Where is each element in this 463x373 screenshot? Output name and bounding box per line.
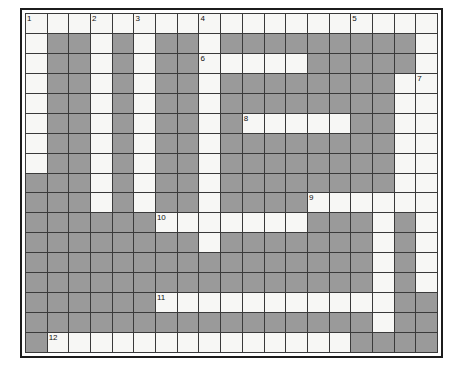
- letter-cell[interactable]: [91, 134, 112, 153]
- letter-cell[interactable]: [26, 34, 47, 53]
- letter-cell[interactable]: [221, 54, 242, 73]
- letter-cell[interactable]: [199, 114, 220, 133]
- letter-cell[interactable]: 5: [351, 14, 372, 33]
- letter-cell[interactable]: [416, 233, 437, 252]
- letter-cell[interactable]: [265, 14, 286, 33]
- letter-cell[interactable]: [286, 213, 307, 232]
- letter-cell[interactable]: 1: [26, 14, 47, 33]
- letter-cell[interactable]: [395, 114, 416, 133]
- letter-cell[interactable]: [286, 293, 307, 312]
- letter-cell[interactable]: [395, 154, 416, 173]
- letter-cell[interactable]: [221, 333, 242, 352]
- letter-cell[interactable]: [221, 14, 242, 33]
- letter-cell[interactable]: [373, 293, 394, 312]
- letter-cell[interactable]: [91, 174, 112, 193]
- letter-cell[interactable]: [395, 174, 416, 193]
- letter-cell[interactable]: [308, 114, 329, 133]
- letter-cell[interactable]: [416, 174, 437, 193]
- letter-cell[interactable]: [265, 114, 286, 133]
- letter-cell[interactable]: [91, 154, 112, 173]
- letter-cell[interactable]: [199, 154, 220, 173]
- letter-cell[interactable]: [330, 114, 351, 133]
- letter-cell[interactable]: [416, 253, 437, 272]
- letter-cell[interactable]: [199, 134, 220, 153]
- letter-cell[interactable]: 4: [199, 14, 220, 33]
- letter-cell[interactable]: [134, 54, 155, 73]
- letter-cell[interactable]: [416, 54, 437, 73]
- letter-cell[interactable]: 7: [416, 74, 437, 93]
- letter-cell[interactable]: [199, 74, 220, 93]
- letter-cell[interactable]: [134, 114, 155, 133]
- letter-cell[interactable]: [221, 213, 242, 232]
- letter-cell[interactable]: [330, 333, 351, 352]
- letter-cell[interactable]: 10: [156, 213, 177, 232]
- letter-cell[interactable]: [91, 333, 112, 352]
- letter-cell[interactable]: [308, 333, 329, 352]
- letter-cell[interactable]: [199, 174, 220, 193]
- letter-cell[interactable]: [395, 74, 416, 93]
- letter-cell[interactable]: [243, 14, 264, 33]
- letter-cell[interactable]: [395, 134, 416, 153]
- letter-cell[interactable]: [351, 293, 372, 312]
- letter-cell[interactable]: [373, 253, 394, 272]
- letter-cell[interactable]: [330, 293, 351, 312]
- letter-cell[interactable]: [91, 34, 112, 53]
- letter-cell[interactable]: [286, 114, 307, 133]
- letter-cell[interactable]: [134, 94, 155, 113]
- letter-cell[interactable]: [265, 213, 286, 232]
- crossword-grid[interactable]: 123456789101112: [25, 13, 438, 353]
- letter-cell[interactable]: [134, 154, 155, 173]
- letter-cell[interactable]: 3: [134, 14, 155, 33]
- letter-cell[interactable]: [156, 14, 177, 33]
- letter-cell[interactable]: [243, 333, 264, 352]
- letter-cell[interactable]: [113, 333, 134, 352]
- letter-cell[interactable]: [134, 74, 155, 93]
- letter-cell[interactable]: [243, 213, 264, 232]
- letter-cell[interactable]: 8: [243, 114, 264, 133]
- letter-cell[interactable]: [199, 94, 220, 113]
- letter-cell[interactable]: [373, 213, 394, 232]
- letter-cell[interactable]: [134, 193, 155, 212]
- letter-cell[interactable]: [265, 333, 286, 352]
- letter-cell[interactable]: [286, 54, 307, 73]
- letter-cell[interactable]: [134, 333, 155, 352]
- letter-cell[interactable]: [26, 114, 47, 133]
- letter-cell[interactable]: [26, 134, 47, 153]
- letter-cell[interactable]: [69, 14, 90, 33]
- letter-cell[interactable]: [26, 94, 47, 113]
- letter-cell[interactable]: [243, 54, 264, 73]
- letter-cell[interactable]: 2: [91, 14, 112, 33]
- letter-cell[interactable]: [416, 213, 437, 232]
- letter-cell[interactable]: [308, 293, 329, 312]
- letter-cell[interactable]: [265, 54, 286, 73]
- letter-cell[interactable]: [199, 213, 220, 232]
- letter-cell[interactable]: [199, 193, 220, 212]
- letter-cell[interactable]: [416, 193, 437, 212]
- letter-cell[interactable]: 11: [156, 293, 177, 312]
- letter-cell[interactable]: [199, 293, 220, 312]
- letter-cell[interactable]: [373, 233, 394, 252]
- letter-cell[interactable]: [416, 34, 437, 53]
- letter-cell[interactable]: [416, 14, 437, 33]
- letter-cell[interactable]: [395, 14, 416, 33]
- letter-cell[interactable]: [134, 34, 155, 53]
- letter-cell[interactable]: 12: [48, 333, 69, 352]
- letter-cell[interactable]: [113, 14, 134, 33]
- letter-cell[interactable]: [416, 154, 437, 173]
- letter-cell[interactable]: [26, 154, 47, 173]
- letter-cell[interactable]: [178, 14, 199, 33]
- letter-cell[interactable]: [199, 333, 220, 352]
- letter-cell[interactable]: [48, 14, 69, 33]
- letter-cell[interactable]: [243, 293, 264, 312]
- letter-cell[interactable]: [416, 114, 437, 133]
- letter-cell[interactable]: [330, 193, 351, 212]
- letter-cell[interactable]: 6: [199, 54, 220, 73]
- letter-cell[interactable]: [178, 293, 199, 312]
- letter-cell[interactable]: [286, 333, 307, 352]
- letter-cell[interactable]: [221, 293, 242, 312]
- letter-cell[interactable]: [373, 193, 394, 212]
- letter-cell[interactable]: [373, 273, 394, 292]
- letter-cell[interactable]: [373, 313, 394, 332]
- letter-cell[interactable]: [91, 74, 112, 93]
- letter-cell[interactable]: [416, 273, 437, 292]
